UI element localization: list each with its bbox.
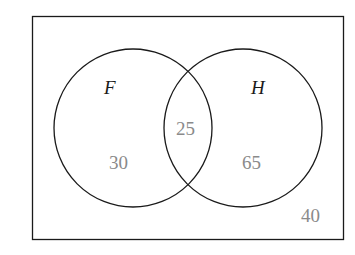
venn-diagram: F H 25 30 65 40 (0, 0, 355, 255)
set-f-label: F (103, 77, 116, 98)
outside-value: 40 (301, 205, 320, 226)
intersection-value: 25 (176, 118, 195, 139)
set-h-label: H (250, 77, 266, 98)
f-only-value: 30 (109, 152, 128, 173)
h-only-value: 65 (242, 152, 261, 173)
